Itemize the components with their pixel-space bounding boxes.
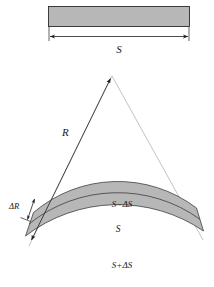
middle-arc-label: S: [116, 224, 121, 234]
thickness-label: ΔR: [8, 201, 20, 211]
flat-strip-group: S: [49, 7, 190, 55]
flat-strip-rect: [49, 7, 190, 27]
figure-root: S R ΔR S−ΔS S S+ΔS: [0, 0, 214, 287]
figure-svg: S R ΔR S−ΔS S S+ΔS: [0, 0, 214, 287]
radius-arrow: [32, 79, 111, 241]
outer-arc-label: S+ΔS: [112, 260, 133, 270]
thickness-tick-lower: [21, 218, 31, 222]
inner-arc-label: S−ΔS: [112, 199, 133, 209]
strip-length-label: S: [116, 43, 122, 55]
radius-label: R: [61, 126, 69, 138]
fan-group: R ΔR S−ΔS S S+ΔS: [8, 76, 204, 270]
